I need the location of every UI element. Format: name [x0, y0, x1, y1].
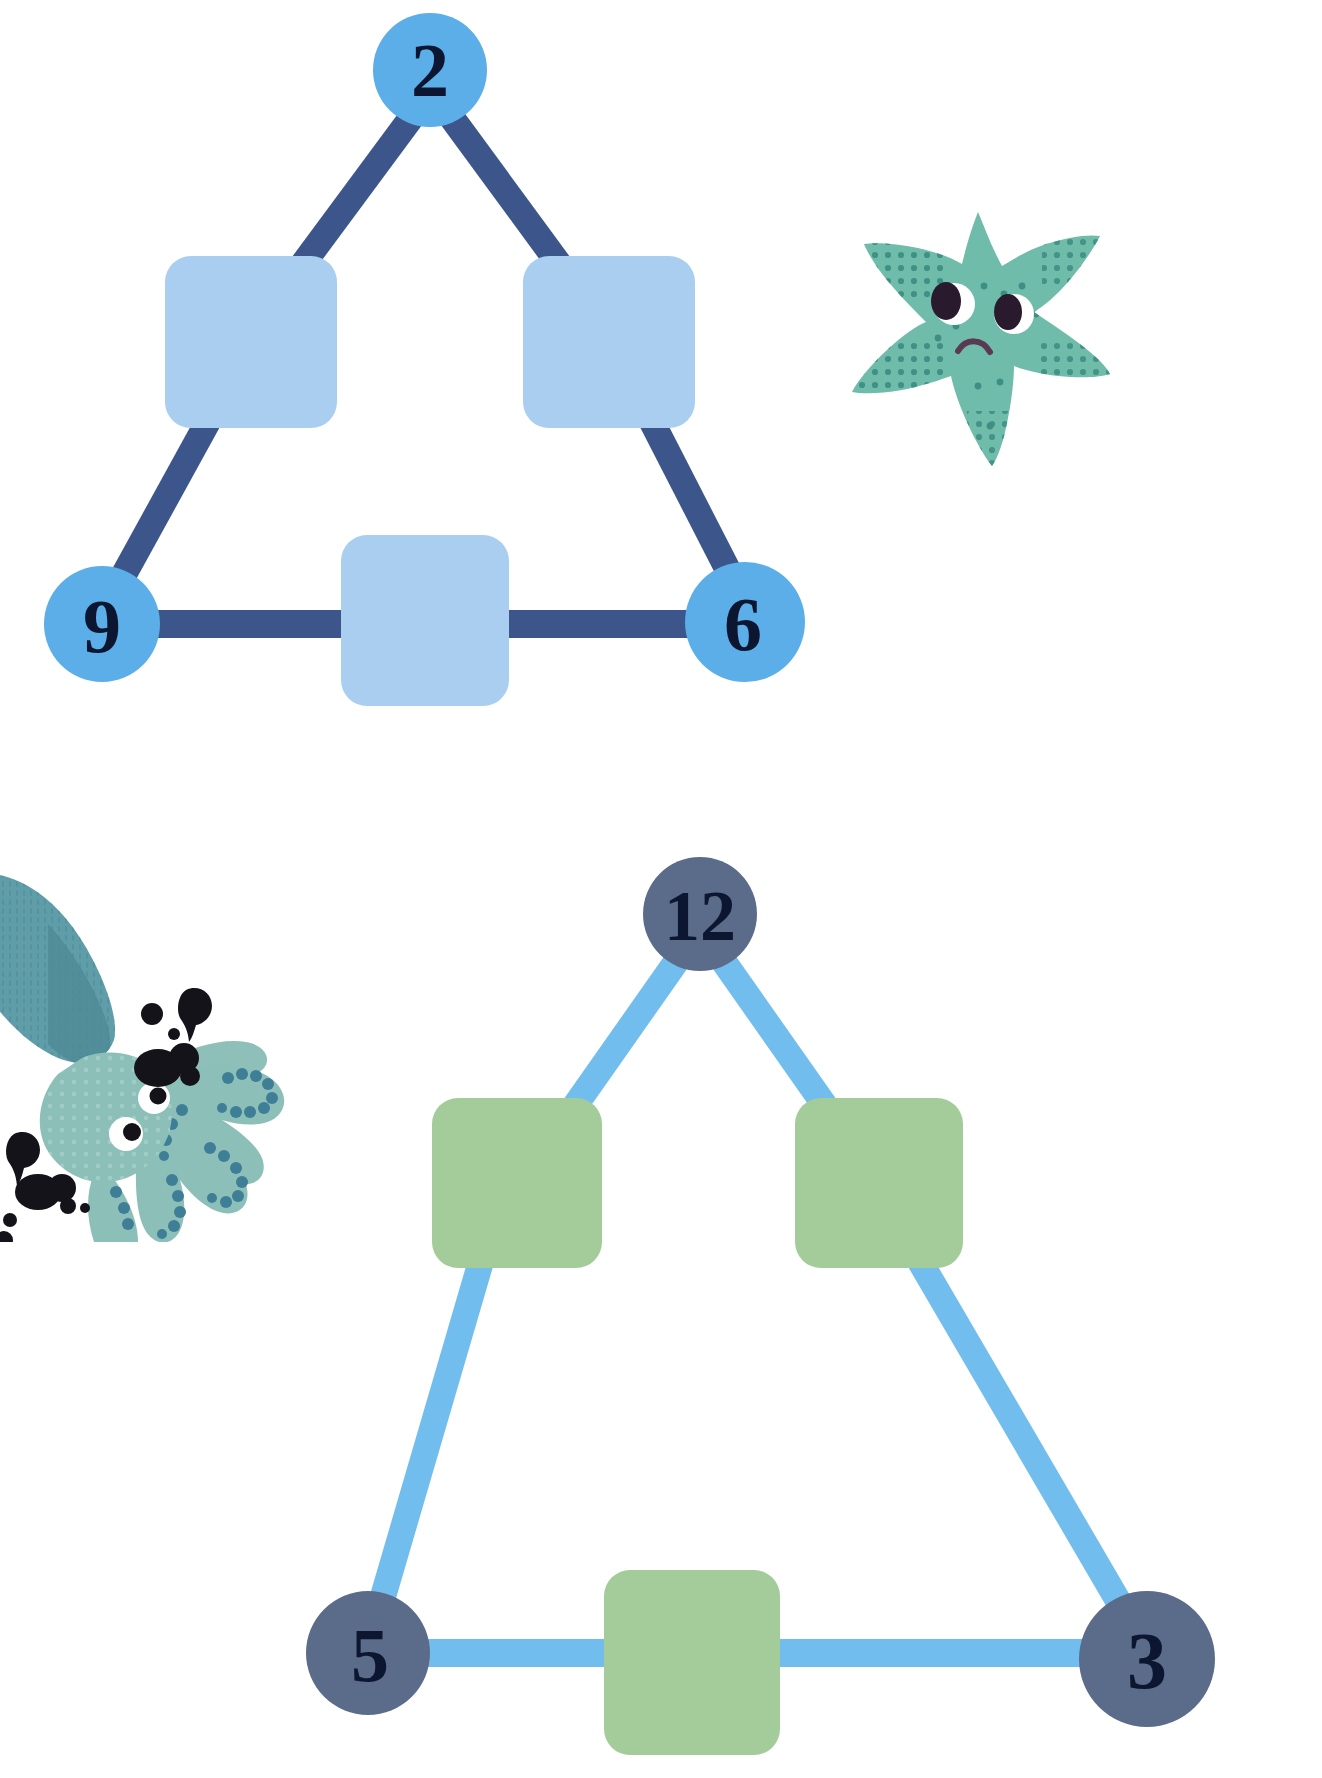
answer-box-bottom[interactable]	[604, 1570, 780, 1755]
answer-box-right[interactable]	[795, 1098, 963, 1268]
worksheet-canvas: 2 9 6 12 5 3	[0, 0, 1322, 1778]
edge-top-to-left	[572, 962, 676, 1110]
squid-upper-pupil	[150, 1088, 167, 1105]
squid-illustration	[0, 862, 286, 1242]
node-circle-bottom-right-label: 3	[1127, 1617, 1167, 1705]
starfish-illustration	[832, 186, 1142, 506]
starfish-right-pupil	[994, 294, 1022, 330]
starfish-left-pupil	[931, 282, 961, 320]
edge-top-to-right	[724, 962, 828, 1110]
squid-mantle	[0, 862, 136, 1082]
node-circle-top-label: 12	[664, 876, 736, 956]
puzzle-bottom-edges	[360, 962, 1150, 1653]
squid-lower-pupil	[123, 1123, 141, 1141]
node-circle-bottom-left-label: 5	[351, 1613, 389, 1697]
answer-box-left[interactable]	[432, 1098, 602, 1268]
edge-left-to-bottomleft	[382, 1258, 482, 1600]
edge-right-to-bottomright	[918, 1258, 1120, 1604]
